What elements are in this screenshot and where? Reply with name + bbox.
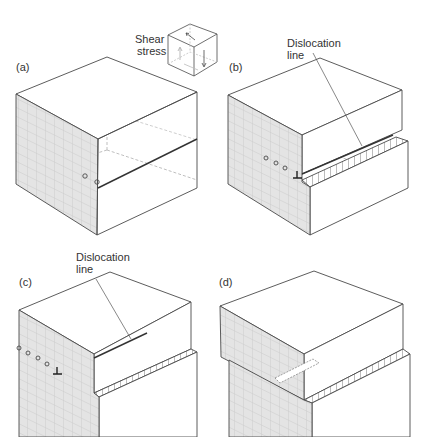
shear-stress-cube-icon	[168, 24, 217, 76]
panel-b-dislocation-label-line2: line	[287, 49, 304, 61]
panel-b-block	[228, 53, 408, 235]
dislocation-diagram	[0, 0, 426, 437]
panel-b-label: (b)	[229, 61, 242, 73]
panel-a-block	[16, 57, 197, 235]
panel-c-label: (c)	[19, 276, 32, 288]
panel-c-dislocation-label-line1: Dislocation	[76, 251, 130, 263]
panel-c-dislocation-label-line2: line	[76, 263, 93, 275]
panel-b-dislocation-label-line1: Dislocation	[287, 37, 341, 49]
panel-a-label: (a)	[16, 61, 29, 73]
panel-d-block	[220, 271, 410, 437]
panel-c-block	[17, 272, 197, 437]
inset-label-line2: stress	[137, 45, 166, 57]
panel-d-label: (d)	[219, 276, 232, 288]
inset-label-line1: Shear	[135, 33, 164, 45]
